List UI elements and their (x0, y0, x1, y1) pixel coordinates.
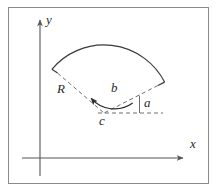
x-axis-label: x (190, 137, 196, 150)
diagram-canvas (0, 0, 218, 193)
center-label-c: c (99, 114, 105, 127)
radius-label-R: R (57, 82, 65, 95)
sector-outline (52, 45, 165, 86)
outer-arc (52, 45, 165, 82)
y-axis-label: y (46, 13, 52, 26)
arc-angle-label-b: b (111, 81, 118, 94)
right-radius-solid-stub (158, 82, 165, 85)
sector-diagram-figure: y x R b c a (0, 0, 218, 193)
coordinate-axes (22, 20, 183, 176)
orientation-angle-label-a: a (144, 96, 151, 109)
left-radius-solid-stub (52, 69, 58, 73)
